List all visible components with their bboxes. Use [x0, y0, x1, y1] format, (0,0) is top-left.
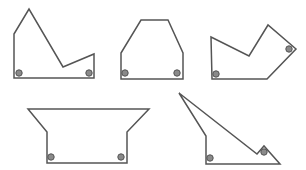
pivot-dot [213, 71, 219, 77]
pivot-dot [48, 154, 54, 160]
pivot-dot [286, 46, 292, 52]
polygon-outline [211, 25, 296, 79]
pivot-dot [118, 154, 124, 160]
pivot-dot [86, 70, 92, 76]
pivot-dot [261, 149, 267, 155]
shape-5 [179, 93, 280, 164]
polygon-outline [14, 9, 94, 78]
pivot-dot [122, 70, 128, 76]
polygon-outline [121, 20, 183, 79]
diagram-canvas [0, 0, 306, 170]
shape-4 [28, 109, 149, 163]
shape-1 [14, 9, 94, 78]
shape-2 [121, 20, 183, 79]
pivot-dot [174, 70, 180, 76]
pivot-dot [207, 155, 213, 161]
pivot-dot [16, 70, 22, 76]
shape-3 [211, 25, 296, 79]
polygon-outline [28, 109, 149, 163]
